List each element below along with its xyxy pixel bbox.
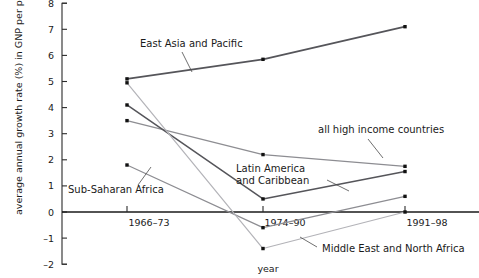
data-point-marker: [261, 58, 264, 61]
y-tick-label: –2: [43, 259, 54, 270]
data-point-marker: [403, 170, 406, 173]
series-annotation-label: and Caribbean: [236, 175, 309, 186]
chart-figure: average annual growth rate (%) in GNP pe…: [0, 0, 479, 278]
y-tick-label: 4: [48, 102, 54, 113]
annotation-leader-line: [368, 139, 383, 158]
series-line: [127, 27, 405, 79]
growth-rate-line-chart: average annual growth rate (%) in GNP pe…: [0, 0, 479, 278]
x-tick-label: 1991–98: [406, 217, 447, 228]
y-tick-label: 3: [48, 128, 54, 139]
y-tick-label: 1: [48, 180, 54, 191]
x-axis-label: year: [257, 263, 278, 274]
series-annotation-label: all high income countries: [318, 124, 444, 135]
data-point-marker: [125, 163, 128, 166]
y-tick-label: 8: [48, 0, 54, 9]
data-point-marker: [125, 81, 128, 84]
series-annotation-label: Sub-Saharan Africa: [68, 184, 164, 195]
series-annotation-label: East Asia and Pacific: [140, 38, 243, 49]
data-point-marker: [403, 25, 406, 28]
data-point-marker: [403, 195, 406, 198]
data-point-marker: [125, 119, 128, 122]
x-axis-ticks: 1966–731974–901991–98: [127, 206, 448, 228]
x-tick-label: 1966–73: [128, 217, 169, 228]
data-point-marker: [403, 210, 406, 213]
annotation-leader-line: [182, 52, 192, 72]
annotation-leader-line: [300, 237, 317, 247]
data-point-marker: [261, 226, 264, 229]
y-axis-label: average annual growth rate (%) in GNP pe…: [13, 0, 24, 215]
annotation-leader-line: [138, 167, 151, 185]
y-axis-ticks: –2–1012345678: [43, 0, 67, 270]
data-point-marker: [261, 197, 264, 200]
series-annotation-label: Middle East and North Africa: [322, 243, 465, 254]
data-point-marker: [403, 165, 406, 168]
y-tick-label: –1: [43, 233, 54, 244]
y-tick-label: 6: [48, 50, 54, 61]
y-tick-label: 7: [48, 24, 54, 35]
series-annotation-label: Latin America: [236, 163, 305, 174]
y-tick-label: 0: [48, 207, 54, 218]
data-point-marker: [261, 247, 264, 250]
data-point-marker: [125, 103, 128, 106]
data-point-marker: [261, 153, 264, 156]
annotation-leaders: [138, 52, 383, 247]
y-tick-label: 5: [48, 76, 54, 87]
data-point-marker: [125, 77, 128, 80]
y-tick-label: 2: [48, 154, 54, 165]
